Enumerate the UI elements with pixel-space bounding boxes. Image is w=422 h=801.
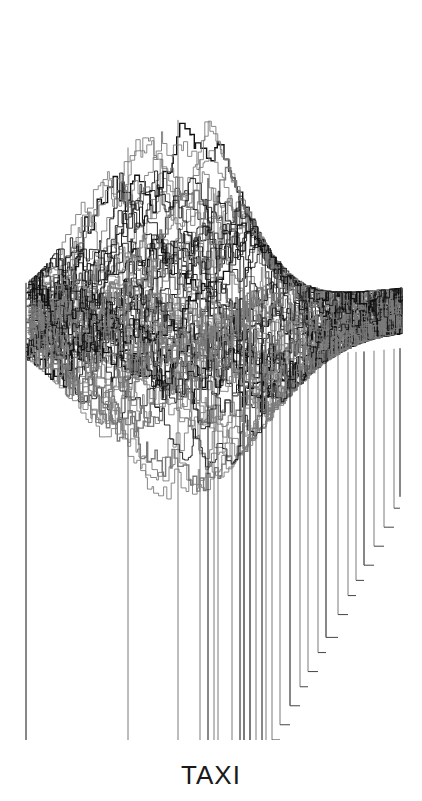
artwork-caption: TAXI	[0, 760, 422, 791]
step-line-artwork	[0, 0, 422, 740]
